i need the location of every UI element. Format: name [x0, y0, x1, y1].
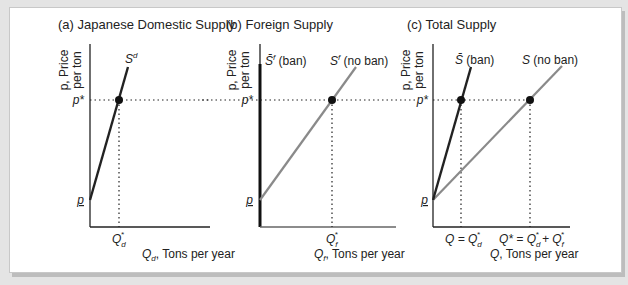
chart-a-curve-label: Sd — [125, 51, 138, 66]
chart-b-ylabel-2: per ton — [238, 51, 252, 88]
chart-a-ylabel-2: per ton — [70, 51, 84, 88]
chart-b: (b) Foreign Supply p, Price per ton S̄f … — [202, 17, 418, 263]
chart-b-noban-label: Sf (no ban) — [330, 53, 388, 68]
chart-c-title: (c) Total Supply — [407, 17, 497, 32]
chart-a-ylabel-1: p, Price — [57, 49, 71, 90]
chart-a: (a) Japanese Domestic Supply p, Price pe… — [57, 17, 236, 263]
chart-b-title: (b) Foreign Supply — [226, 17, 333, 32]
chart-c-xlabel: Q, Tons per year — [490, 247, 579, 261]
chart-c-noban-label: S (no ban) — [522, 53, 578, 67]
chart-c-noban-equilibrium-dot — [526, 96, 534, 104]
chart-c-pstar-label: p* — [416, 93, 429, 107]
chart-c-ylabel-2: per ton — [412, 51, 426, 88]
chart-a-pstar-label: p* — [72, 93, 85, 107]
chart-c-plow-label: p — [420, 193, 428, 207]
chart-a-xlabel: Qd, Tons per year — [142, 247, 235, 263]
chart-b-equilibrium-dot — [328, 96, 336, 104]
chart-b-noban-supply — [260, 67, 356, 200]
chart-c-ban-equilibrium-dot — [457, 96, 465, 104]
supply-charts: (a) Japanese Domestic Supply p, Price pe… — [0, 0, 628, 285]
chart-c-q1-label: Q = Qd* — [445, 230, 482, 249]
chart-a-equilibrium-dot — [115, 96, 123, 104]
chart-c-ban-label: S̄ (ban) — [455, 53, 494, 67]
chart-b-pstar-label: p* — [241, 93, 254, 107]
chart-b-plow-label: p — [245, 193, 253, 207]
chart-b-xlabel: Qf, Tons per year — [314, 247, 405, 263]
chart-a-supply-curve — [90, 67, 128, 200]
chart-a-qstar-label: Qd* — [112, 230, 126, 249]
chart-a-plow-label: p — [76, 193, 84, 207]
chart-b-ban-label: S̄f (ban) — [265, 53, 307, 68]
chart-b-ylabel-1: p, Price — [225, 49, 239, 90]
chart-a-title: (a) Japanese Domestic Supply — [58, 17, 236, 32]
chart-c-ylabel-1: p, Price — [399, 49, 413, 90]
chart-c: (c) Total Supply p, Price per ton S̄ (ba… — [399, 17, 579, 261]
